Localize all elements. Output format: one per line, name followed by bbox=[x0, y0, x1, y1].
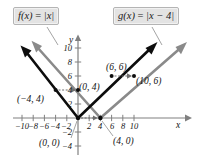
y-tick-label-10: 10 bbox=[58, 44, 72, 53]
curve-g bbox=[32, 41, 188, 118]
point-g-4-0 bbox=[98, 116, 102, 120]
y-tick-label-2: 2 bbox=[58, 100, 72, 109]
point-label-0-4: (0, 4) bbox=[79, 83, 100, 93]
point-f-minus4-4 bbox=[54, 88, 58, 92]
function-label-g: g(x) = |x − 4| bbox=[113, 7, 179, 25]
function-label-g-eq: = bbox=[138, 10, 144, 21]
point-label-0-0: (0, 0) bbox=[39, 139, 60, 149]
y-tick-label--4: −4 bbox=[58, 142, 72, 151]
x-tick-label-4: 4 bbox=[95, 122, 105, 131]
y-tick-label-6: 6 bbox=[58, 72, 72, 81]
y-axis-arrowhead bbox=[75, 35, 81, 42]
y-tick-label--2: −2 bbox=[58, 128, 72, 137]
point-label-minus4-4: (−4, 4) bbox=[17, 95, 44, 105]
function-label-g-rhs: |x − 4| bbox=[146, 10, 174, 21]
y-tick-label-4: 4 bbox=[58, 86, 72, 95]
x-tick-label-10: 10 bbox=[127, 122, 141, 131]
point-f-0-0 bbox=[76, 116, 80, 120]
point-label-10-6: (10, 6) bbox=[136, 77, 161, 87]
y-tick-label-8: 8 bbox=[58, 58, 72, 67]
x-axis-arrowhead bbox=[185, 115, 192, 122]
leader-line-f bbox=[47, 27, 58, 45]
point-label-6-6: (6, 6) bbox=[106, 63, 127, 73]
function-label-f-rhs: |x| bbox=[44, 10, 54, 21]
function-label-g-lhs: g(x) bbox=[118, 10, 135, 21]
connector-arrowhead-right bbox=[127, 73, 132, 78]
point-f-6-6 bbox=[110, 74, 114, 78]
x-axis-name: x bbox=[176, 121, 180, 131]
x-tick-label-6: 6 bbox=[107, 122, 117, 131]
function-label-f: f(x) = |x| bbox=[13, 7, 59, 25]
point-label-4-0: (4, 0) bbox=[113, 137, 134, 147]
x-tick-label-2: 2 bbox=[84, 122, 94, 131]
function-label-f-eq: = bbox=[35, 10, 41, 21]
function-label-f-lhs: f(x) bbox=[18, 10, 33, 21]
